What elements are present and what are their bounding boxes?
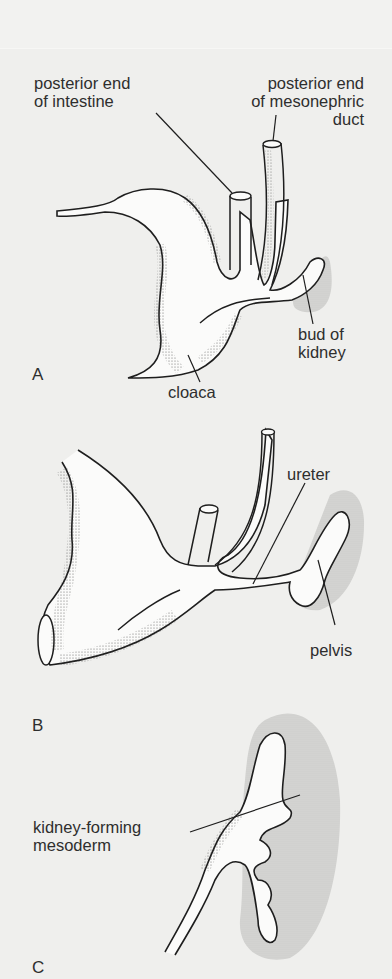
label-mesonephric-duct: posterior end of mesonephric duct <box>251 74 364 128</box>
panel-c-drawing <box>165 713 340 959</box>
panel-letter-c: C <box>32 958 44 978</box>
panel-letter-a: A <box>32 365 43 385</box>
intestine-tube-b <box>188 508 218 565</box>
intestine-opening-a <box>230 192 251 200</box>
cloaca-shape <box>57 189 324 378</box>
leader-intestine <box>156 113 232 193</box>
panel-letter-b: B <box>32 716 43 736</box>
label-pelvis: pelvis <box>310 641 352 659</box>
label-intestine: posterior end of intestine <box>34 74 130 110</box>
label-cloaca: cloaca <box>168 383 216 401</box>
label-ureter: ureter <box>287 465 330 483</box>
label-kidney-forming-mesoderm: kidney-forming mesoderm <box>33 818 141 854</box>
label-bud-of-kidney: bud of kidney <box>298 325 346 361</box>
panel-a-drawing <box>57 113 332 382</box>
